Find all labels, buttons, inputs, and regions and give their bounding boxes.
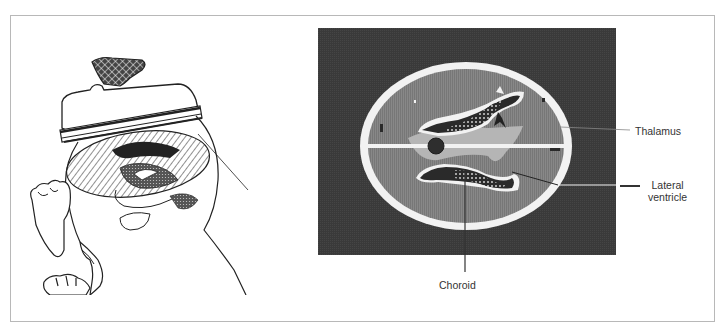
infant-head-illustration [20,50,260,295]
transducer-handle-icon [92,58,145,87]
ultrasound-scan-image [318,28,616,255]
label-thalamus: Thalamus [635,125,681,137]
label-lateral-line1: Lateral [648,179,687,191]
label-lateral-line2: ventricle [648,191,687,203]
label-choroid: Choroid [439,279,476,291]
label-lateral-ventricle: Lateral ventricle [648,179,687,203]
